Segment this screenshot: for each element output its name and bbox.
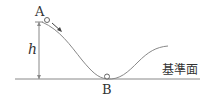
height-label: h — [28, 42, 37, 56]
height-arrow-up-icon — [37, 22, 41, 26]
ball-at-b-icon — [105, 74, 110, 79]
ball-at-a-icon — [45, 18, 50, 23]
point-a-label: A — [35, 5, 44, 18]
point-b-label: B — [102, 83, 112, 96]
height-arrow-down-icon — [37, 75, 41, 79]
reference-plane-label: 基準面 — [162, 64, 198, 76]
